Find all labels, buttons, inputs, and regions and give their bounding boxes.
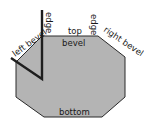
- label-bottom: bottom: [59, 107, 90, 117]
- label-edge-right: edge: [89, 14, 99, 35]
- octagon-shape: [16, 36, 125, 117]
- label-edge-left: edge: [44, 12, 54, 33]
- bevel-diagram: left bevel edge top edge right bevel bev…: [0, 0, 144, 124]
- label-top: top: [68, 26, 82, 36]
- label-bevel: bevel: [62, 38, 85, 48]
